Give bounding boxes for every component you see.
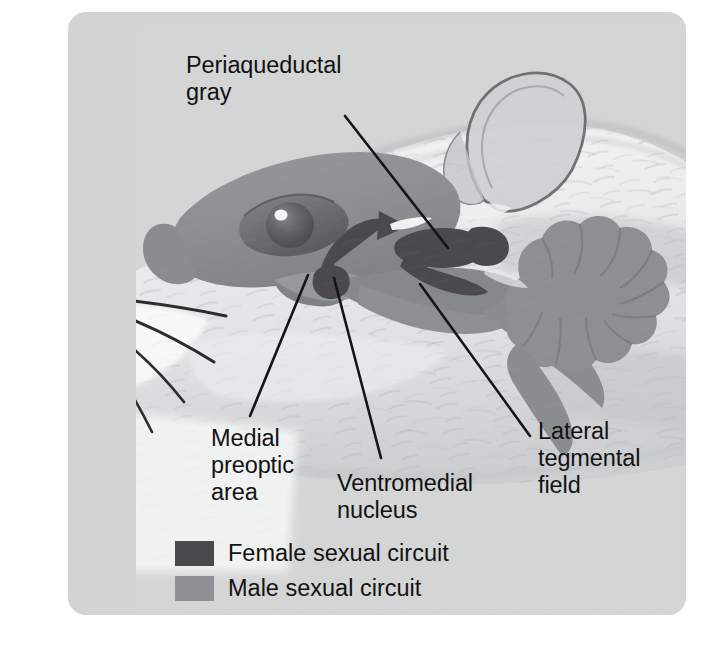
legend-swatch-male-sexual-circuit [175,576,214,601]
legend-item-male-sexual-circuit: Male sexual circuit [175,575,421,601]
legend-label-male-sexual-circuit: Male sexual circuit [228,575,421,601]
diagram-panel: Periaqueductal gray Medial preoptic area… [68,12,686,615]
legend-item-female-sexual-circuit: Female sexual circuit [175,540,449,566]
legend-swatch-female-sexual-circuit [175,541,214,566]
legend: Female sexual circuit Male sexual circui… [68,12,686,615]
legend-label-female-sexual-circuit: Female sexual circuit [228,540,449,566]
figure-root: Periaqueductal gray Medial preoptic area… [0,0,712,653]
